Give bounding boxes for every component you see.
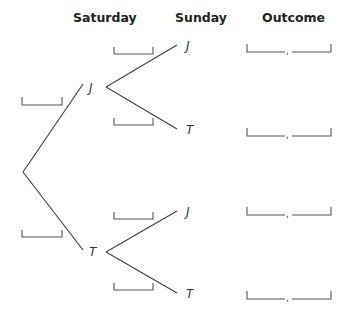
outcome-comma: , [286, 46, 289, 56]
prob-blank-sun-2[interactable] [114, 118, 153, 125]
outcome-comma: , [286, 209, 289, 219]
edge-satT-to-sunT [106, 252, 177, 293]
tree-diagram: J T J T J T , , , [0, 0, 345, 313]
outcome-blank-2[interactable]: , [247, 128, 331, 140]
prob-blank-sat-J[interactable] [22, 97, 62, 105]
outcome-comma: , [286, 293, 289, 303]
node-sun-J-2: J [184, 205, 190, 219]
edge-root-to-sat-T [23, 172, 83, 250]
node-sun-T-1: T [186, 123, 195, 137]
node-sat-T: T [89, 245, 98, 259]
prob-blank-sun-1[interactable] [114, 47, 153, 54]
node-sat-J: J [87, 81, 93, 95]
edge-satJ-to-sunT [106, 87, 177, 129]
prob-blank-sat-T[interactable] [22, 230, 62, 237]
edge-satJ-to-sunJ [106, 45, 177, 87]
node-sun-T-2: T [186, 287, 195, 301]
outcome-comma: , [286, 130, 289, 140]
edge-satT-to-sunJ [106, 211, 177, 252]
prob-blank-sun-4[interactable] [114, 283, 153, 290]
prob-blank-sun-3[interactable] [114, 212, 153, 219]
outcome-blank-4[interactable]: , [247, 291, 331, 303]
outcome-blank-3[interactable]: , [247, 207, 331, 219]
edge-root-to-sat-J [23, 84, 83, 172]
outcome-blank-1[interactable]: , [247, 44, 331, 56]
node-sun-J-1: J [184, 39, 190, 53]
